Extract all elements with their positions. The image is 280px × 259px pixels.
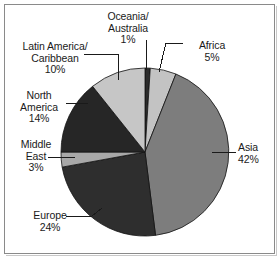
label-text-line1: North	[6, 90, 72, 102]
label-value: 24%	[20, 222, 80, 234]
label-text-line1: Latin America/	[2, 41, 108, 53]
leader-line-africa	[159, 43, 183, 72]
slice-label-middle-east: Middle East 3%	[5, 139, 67, 174]
label-value: 5%	[186, 52, 238, 64]
slice-label-europe: Europe 24%	[20, 210, 80, 233]
label-value: 3%	[5, 162, 67, 174]
slice-label-asia: Asia 42%	[238, 142, 278, 165]
label-text-line1: Asia	[238, 142, 278, 154]
slice-label-africa: Africa 5%	[186, 40, 238, 63]
slice-label-north-america: North America 14%	[6, 90, 72, 125]
label-text-line1: Africa	[186, 40, 238, 52]
label-text-line1: Oceania/	[86, 11, 170, 23]
label-text-line1: Middle	[5, 139, 67, 151]
pie-chart-figure: Oceania/ Australia 1% Africa 5% Latin Am…	[0, 0, 280, 259]
pie-slices	[61, 68, 229, 236]
label-value: 10%	[2, 64, 108, 76]
label-value: 14%	[6, 113, 72, 125]
label-value: 42%	[238, 154, 278, 166]
label-text-line1: Europe	[20, 210, 80, 222]
slice-label-latin-america-caribbean: Latin America/ Caribbean 10%	[2, 41, 108, 76]
